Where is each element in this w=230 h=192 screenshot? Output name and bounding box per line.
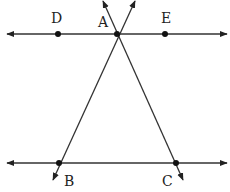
point-C xyxy=(173,160,179,166)
label-D: D xyxy=(51,10,62,26)
label-B: B xyxy=(64,173,74,189)
point-A xyxy=(114,31,120,37)
label-C: C xyxy=(162,173,173,189)
point-B xyxy=(56,160,62,166)
point-E xyxy=(162,31,168,37)
diagram-canvas: DAEBC xyxy=(0,0,230,192)
label-E: E xyxy=(161,10,171,26)
geometry-diagram: DAEBC D A E B C xyxy=(0,0,230,192)
transversal-AB xyxy=(53,1,135,180)
transversal-AC xyxy=(103,1,183,180)
label-A: A xyxy=(97,14,109,30)
point-D xyxy=(55,31,61,37)
